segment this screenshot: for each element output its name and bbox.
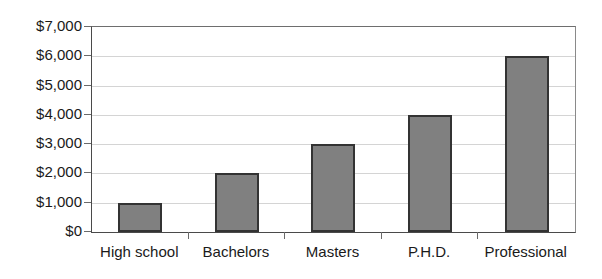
bars-layer xyxy=(92,27,575,232)
plot-area xyxy=(91,26,576,233)
y-axis-tick-label: $5,000 xyxy=(0,77,82,92)
bar[interactable] xyxy=(215,173,259,232)
bar-slot xyxy=(92,27,189,232)
y-axis-tick-label: $6,000 xyxy=(0,47,82,62)
bar-slot xyxy=(285,27,382,232)
x-axis-tick-mark xyxy=(477,232,478,239)
x-axis-tick-mark xyxy=(381,232,382,239)
y-axis-tick-label: $1,000 xyxy=(0,194,82,209)
y-axis-tick-mark xyxy=(84,172,91,173)
x-axis-tick-label: High school xyxy=(91,243,188,261)
x-axis-tick-label: Masters xyxy=(284,243,381,261)
y-axis-tick-label: $3,000 xyxy=(0,135,82,150)
y-axis-tick-mark xyxy=(84,55,91,56)
x-axis-tick-label: Professional xyxy=(477,243,574,261)
y-axis-tick-mark xyxy=(84,143,91,144)
x-axis-tick-mark xyxy=(188,232,189,239)
y-axis-tick-label: $2,000 xyxy=(0,164,82,179)
x-axis-tick-mark xyxy=(284,232,285,239)
x-axis-tick-label: P.H.D. xyxy=(381,243,478,261)
bar-slot xyxy=(382,27,479,232)
bar[interactable] xyxy=(505,56,549,232)
y-axis-tick-mark xyxy=(84,231,91,232)
x-axis-tick-label: Bachelors xyxy=(188,243,285,261)
x-axis-ticks xyxy=(91,232,574,239)
y-axis-tick-mark xyxy=(84,26,91,27)
bar-slot xyxy=(189,27,286,232)
bar-chart: $0$1,000$2,000$3,000$4,000$5,000$6,000$7… xyxy=(0,0,602,279)
y-axis-tick-label: $4,000 xyxy=(0,106,82,121)
y-axis-tick-label: $7,000 xyxy=(0,18,82,33)
bar[interactable] xyxy=(311,144,355,232)
bar[interactable] xyxy=(408,115,452,232)
y-axis: $0$1,000$2,000$3,000$4,000$5,000$6,000$7… xyxy=(0,0,82,279)
y-axis-tick-label: $0 xyxy=(0,223,82,238)
y-axis-tick-mark xyxy=(84,85,91,86)
x-axis: High schoolBachelorsMastersP.H.D.Profess… xyxy=(91,243,574,267)
y-axis-tick-mark xyxy=(84,114,91,115)
bar[interactable] xyxy=(118,203,162,232)
y-axis-tick-mark xyxy=(84,202,91,203)
bar-slot xyxy=(478,27,575,232)
